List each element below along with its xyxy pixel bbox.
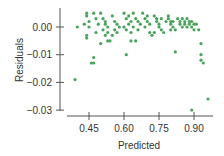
data-point [111,14,114,17]
data-point [101,17,104,20]
data-point [202,61,205,64]
data-point [197,28,200,31]
y-tick-label: −0.02 [27,77,53,88]
data-point [87,25,90,28]
x-tick-label: 0.90 [184,123,204,134]
data-point [160,17,163,20]
data-point [195,23,198,26]
data-point [115,23,118,26]
data-point [185,25,188,28]
data-point [83,23,86,26]
data-point [157,25,160,28]
data-point [136,28,139,31]
x-axis-title: Predicted [118,140,160,151]
data-point [92,61,95,64]
data-point [171,20,174,23]
data-points [73,12,209,112]
data-point [129,20,132,23]
data-point [132,25,135,28]
data-point [122,25,125,28]
data-point [146,20,149,23]
data-point [155,17,158,20]
y-axis-title: Residuals [14,38,25,82]
data-point [111,34,114,37]
data-point [118,25,121,28]
data-point [108,39,111,42]
data-point [104,23,107,26]
data-point [106,25,109,28]
x-tick-label: 0.45 [79,123,99,134]
data-point [113,20,116,23]
y-tick-label: 0.00 [33,22,53,33]
data-point [199,59,202,62]
data-point [190,25,193,28]
data-point [199,42,202,45]
data-point [181,25,184,28]
data-point [99,12,102,15]
data-point [106,31,109,34]
data-point [136,20,139,23]
data-point [174,28,177,31]
data-point [176,17,179,20]
data-point [73,78,76,81]
data-point [127,23,130,26]
data-point [178,23,181,26]
data-point [169,23,172,26]
data-point [94,17,97,20]
data-point [190,20,193,23]
data-point [125,53,128,56]
y-ticks: 0.00−0.01−0.02−0.03 [27,22,64,116]
data-point [150,34,153,37]
data-point [160,28,163,31]
data-point [183,23,186,26]
x-ticks: 0.450.600.750.90 [79,112,204,134]
data-point [99,42,102,45]
data-point [171,25,174,28]
data-point [92,12,95,15]
data-point [146,14,149,17]
data-point [148,31,151,34]
data-point [162,31,165,34]
data-point [167,14,170,17]
data-point [127,14,130,17]
data-point [129,31,132,34]
data-point [87,20,90,23]
data-point [85,14,88,17]
data-point [167,17,170,20]
data-point [141,12,144,15]
x-tick-label: 0.60 [114,123,134,134]
data-point [190,109,193,112]
data-point [115,31,118,34]
data-point [134,39,137,42]
data-point [157,23,160,26]
data-point [155,20,158,23]
data-point [134,17,137,20]
data-point [174,50,177,53]
data-point [125,28,128,31]
data-point [206,97,209,100]
residual-plot: 0.00−0.01−0.02−0.03 0.450.600.750.90 Res… [0,0,224,156]
data-point [153,31,156,34]
data-point [122,12,125,15]
data-point [169,28,172,31]
data-point [85,37,88,40]
data-point [92,56,95,59]
data-point [188,23,191,26]
data-point [101,28,104,31]
data-point [85,34,88,37]
data-point [143,17,146,20]
data-point [185,17,188,20]
y-tick-label: −0.03 [27,105,53,116]
data-point [192,28,195,31]
data-point [97,23,100,26]
data-point [129,39,132,42]
data-point [113,28,116,31]
data-point [132,12,135,15]
y-tick-label: −0.01 [27,49,53,60]
data-point [164,20,167,23]
data-point [76,25,79,28]
data-point [181,17,184,20]
data-point [125,17,128,20]
data-point [148,23,151,26]
x-tick-label: 0.75 [149,123,169,134]
